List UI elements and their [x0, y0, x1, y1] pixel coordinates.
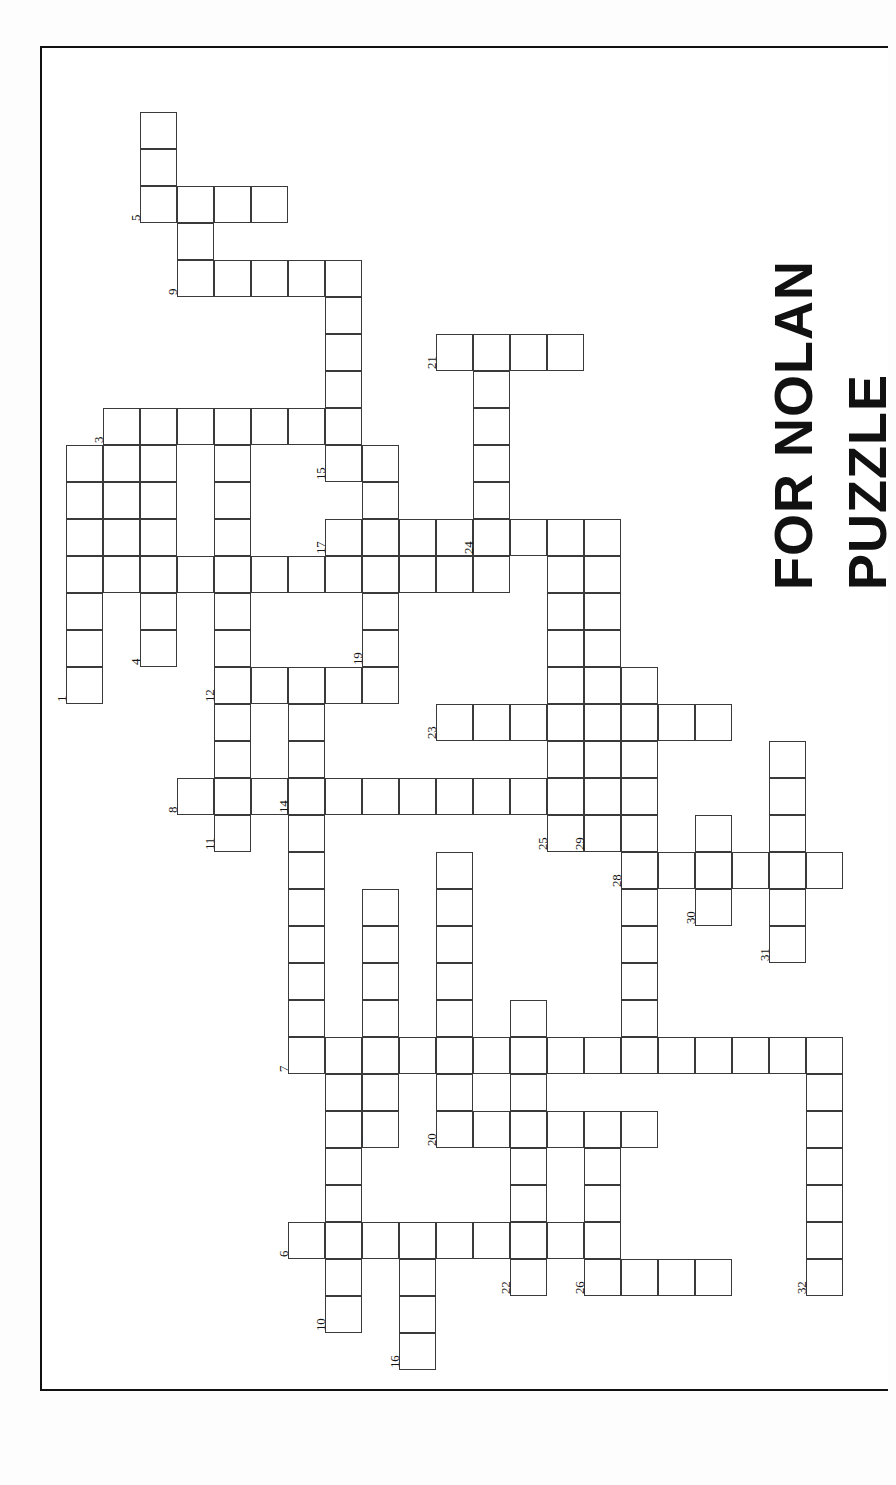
grid-cell[interactable]: [140, 593, 177, 630]
grid-cell[interactable]: [473, 334, 510, 371]
grid-cell[interactable]: [399, 1037, 436, 1074]
grid-cell[interactable]: [584, 1148, 621, 1185]
grid-cell[interactable]: [140, 482, 177, 519]
grid-cell[interactable]: [547, 1111, 584, 1148]
grid-cell[interactable]: [806, 1148, 843, 1185]
grid-cell[interactable]: [288, 408, 325, 445]
grid-cell[interactable]: [399, 778, 436, 815]
grid-cell[interactable]: [399, 556, 436, 593]
grid-cell[interactable]: [584, 1222, 621, 1259]
grid-cell[interactable]: [362, 778, 399, 815]
grid-cell[interactable]: [214, 630, 251, 667]
grid-cell[interactable]: [436, 556, 473, 593]
grid-cell[interactable]: [695, 1037, 732, 1074]
grid-cell[interactable]: [436, 889, 473, 926]
grid-cell[interactable]: [658, 704, 695, 741]
grid-cell[interactable]: [214, 445, 251, 482]
grid-cell[interactable]: [288, 852, 325, 889]
grid-cell[interactable]: [362, 482, 399, 519]
grid-cell[interactable]: [436, 1037, 473, 1074]
grid-cell[interactable]: [251, 667, 288, 704]
grid-cell[interactable]: [362, 1037, 399, 1074]
grid-cell[interactable]: [288, 963, 325, 1000]
grid-cell[interactable]: [621, 1111, 658, 1148]
grid-cell[interactable]: [140, 519, 177, 556]
grid-cell[interactable]: [214, 556, 251, 593]
grid-cell[interactable]: [473, 1222, 510, 1259]
grid-cell[interactable]: [251, 408, 288, 445]
grid-cell[interactable]: [325, 371, 362, 408]
grid-cell[interactable]: [769, 778, 806, 815]
grid-cell[interactable]: [288, 1000, 325, 1037]
grid-cell[interactable]: [547, 778, 584, 815]
grid-cell[interactable]: [214, 519, 251, 556]
grid-cell-start-6[interactable]: 6: [288, 1222, 325, 1259]
grid-cell-start-4[interactable]: 4: [140, 630, 177, 667]
grid-cell[interactable]: [140, 556, 177, 593]
grid-cell[interactable]: [325, 1222, 362, 1259]
grid-cell[interactable]: [399, 1222, 436, 1259]
grid-cell[interactable]: [584, 519, 621, 556]
grid-cell[interactable]: [732, 852, 769, 889]
grid-cell[interactable]: [325, 556, 362, 593]
grid-cell[interactable]: [621, 667, 658, 704]
grid-cell[interactable]: [214, 704, 251, 741]
grid-cell[interactable]: [547, 1037, 584, 1074]
grid-cell[interactable]: [325, 667, 362, 704]
grid-cell[interactable]: [473, 445, 510, 482]
grid-cell-start-26[interactable]: 26: [584, 1259, 621, 1296]
grid-cell[interactable]: [66, 556, 103, 593]
grid-cell[interactable]: [399, 1296, 436, 1333]
grid-cell[interactable]: [362, 926, 399, 963]
grid-cell-start-28[interactable]: 28: [621, 852, 658, 889]
grid-cell[interactable]: [510, 704, 547, 741]
grid-cell[interactable]: [362, 667, 399, 704]
grid-cell[interactable]: [806, 1074, 843, 1111]
grid-cell-start-1[interactable]: 1: [66, 667, 103, 704]
grid-cell[interactable]: [769, 1037, 806, 1074]
grid-cell-start-24[interactable]: 24: [473, 519, 510, 556]
grid-cell[interactable]: [325, 1037, 362, 1074]
grid-cell[interactable]: [362, 445, 399, 482]
grid-cell[interactable]: [436, 1222, 473, 1259]
grid-cell[interactable]: [325, 778, 362, 815]
grid-cell[interactable]: [621, 778, 658, 815]
grid-cell-start-9[interactable]: 9: [177, 260, 214, 297]
grid-cell[interactable]: [436, 926, 473, 963]
grid-cell[interactable]: [547, 630, 584, 667]
grid-cell[interactable]: [584, 630, 621, 667]
grid-cell-start-23[interactable]: 23: [436, 704, 473, 741]
grid-cell[interactable]: [436, 778, 473, 815]
grid-cell-start-10[interactable]: 10: [325, 1296, 362, 1333]
grid-cell[interactable]: [621, 741, 658, 778]
grid-cell[interactable]: [547, 334, 584, 371]
grid-cell[interactable]: [251, 186, 288, 223]
grid-cell-start-11[interactable]: 11: [214, 815, 251, 852]
grid-cell-start-14[interactable]: 14: [288, 778, 325, 815]
grid-cell[interactable]: [66, 482, 103, 519]
grid-cell[interactable]: [325, 1185, 362, 1222]
grid-cell[interactable]: [584, 1037, 621, 1074]
grid-cell[interactable]: [473, 1111, 510, 1148]
grid-cell[interactable]: [251, 260, 288, 297]
grid-cell[interactable]: [436, 1074, 473, 1111]
grid-cell[interactable]: [362, 1000, 399, 1037]
grid-cell-start-19[interactable]: 19: [362, 630, 399, 667]
grid-cell[interactable]: [473, 482, 510, 519]
grid-cell[interactable]: [584, 667, 621, 704]
grid-cell[interactable]: [103, 445, 140, 482]
grid-cell[interactable]: [288, 556, 325, 593]
grid-cell[interactable]: [806, 1037, 843, 1074]
grid-cell[interactable]: [140, 408, 177, 445]
grid-cell[interactable]: [806, 852, 843, 889]
grid-cell[interactable]: [66, 445, 103, 482]
grid-cell[interactable]: [695, 852, 732, 889]
grid-cell[interactable]: [325, 334, 362, 371]
grid-cell[interactable]: [621, 926, 658, 963]
grid-cell[interactable]: [325, 1259, 362, 1296]
grid-cell[interactable]: [621, 704, 658, 741]
grid-cell[interactable]: [177, 556, 214, 593]
grid-cell-start-8[interactable]: 8: [177, 778, 214, 815]
grid-cell[interactable]: [325, 1074, 362, 1111]
grid-cell[interactable]: [806, 1185, 843, 1222]
